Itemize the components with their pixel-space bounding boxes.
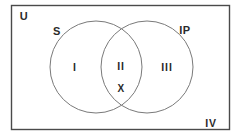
universe-label: U (20, 11, 28, 22)
region-label-three: III (161, 62, 172, 73)
element-label-x: X (117, 84, 124, 94)
set-label-s: S (53, 26, 61, 37)
set-circle-s (50, 21, 142, 113)
venn-diagram-figure: U S IP I II III IV X (0, 0, 239, 140)
set-label-ip: IP (179, 25, 190, 36)
region-label-four: IV (205, 118, 217, 129)
region-label-two: II (117, 61, 125, 72)
region-label-one: I (73, 62, 77, 73)
